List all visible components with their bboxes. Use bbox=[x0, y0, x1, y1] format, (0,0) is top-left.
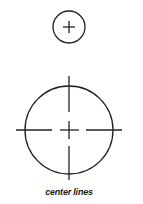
center-lines-diagram bbox=[0, 0, 143, 204]
figure-caption: center lines bbox=[0, 187, 138, 197]
small-circle-with-cross bbox=[53, 11, 85, 43]
large-circle-with-center-lines bbox=[16, 76, 122, 180]
